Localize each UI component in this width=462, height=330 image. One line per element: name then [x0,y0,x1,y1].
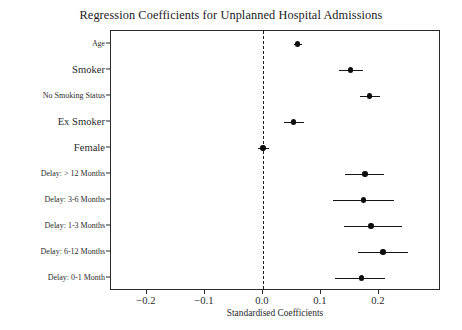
x-axis-tick-mark [320,290,321,294]
x-axis-tick-mark [204,290,205,294]
coefficient-point-marker [367,93,372,98]
y-axis-tick-mark [106,95,110,96]
y-axis-tick-label: Smoker [72,64,110,75]
y-axis-tick-label: Delay: 1-3 Months [45,221,110,230]
x-axis-tick-mark [378,290,379,294]
plot-area [110,30,440,290]
y-axis-tick-label: No Smoking Status [43,91,110,100]
x-axis-tick-mark [146,290,147,294]
x-axis-tick-label: −0.2 [136,295,155,306]
x-axis-title: Standardised Coefficients [110,308,440,318]
y-axis-tick-mark [106,251,110,252]
y-axis-tick-mark [106,199,110,200]
y-axis-tick-mark [106,277,110,278]
coefficient-point-marker [368,223,373,228]
y-axis-labels: AgeSmokerNo Smoking StatusEx SmokerFemal… [0,30,110,290]
y-axis-tick-mark [106,121,110,122]
coefficient-point-marker [348,67,353,72]
x-axis-tick-label: 0.2 [371,295,384,306]
y-axis-tick-label: Delay: 3-6 Months [45,195,110,204]
figure-canvas: Regression Coefficients for Unplanned Ho… [0,0,462,330]
x-axis-tick-label: 0.1 [313,295,326,306]
y-axis-tick-mark [106,225,110,226]
x-axis-tick-label: −0.1 [194,295,213,306]
chart-title: Regression Coefficients for Unplanned Ho… [0,8,462,23]
coefficient-point-marker [291,119,296,124]
y-axis-tick-label: Female [74,142,110,153]
y-axis-tick-label: Delay: > 12 Months [41,169,110,178]
y-axis-tick-mark [106,173,110,174]
coefficient-point-marker [295,41,300,46]
zero-reference-line [263,31,264,289]
y-axis-tick-mark [106,69,110,70]
y-axis-tick-mark [106,43,110,44]
y-axis-tick-mark [106,147,110,148]
y-axis-tick-label: Delay: 6-12 Months [41,247,110,256]
coefficient-point-marker [380,249,385,254]
coefficient-point-marker [362,171,367,176]
x-axis-tick-label: 0.0 [255,295,268,306]
x-axis-tick-mark [262,290,263,294]
y-axis-tick-label: Ex Smoker [58,116,110,127]
y-axis-tick-label: Delay: 0-1 Month [48,273,110,282]
coefficient-point-marker [260,145,265,150]
coefficient-point-marker [361,197,366,202]
coefficient-point-marker [359,275,364,280]
